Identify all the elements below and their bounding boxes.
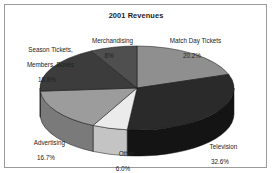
pie-label-season-tickets-line2: Members, Boxes	[27, 61, 74, 68]
pie-label-television-percent: 32.6%	[192, 158, 248, 166]
pie-label-match-day-tickets: Match Day Tickets 20.2%	[156, 29, 228, 75]
pie-label-advertising-text: Advertising	[34, 139, 65, 146]
pie-label-other-text: Other	[119, 150, 135, 157]
pie-label-advertising-percent: 16.7%	[18, 154, 74, 162]
pie-label-season-tickets: Season Tickets, Members, Boxes 18.8%	[8, 38, 86, 99]
pie-label-match-day-tickets-percent: 20.2%	[156, 52, 228, 60]
pie-label-match-day-tickets-text: Match Day Tickets	[170, 37, 221, 44]
pie-label-merchandising: Merchandising 8%	[78, 29, 140, 75]
chart-figure: 2001 Revenues Match Day Tickets 20.2%Tel…	[0, 0, 272, 173]
pie-label-season-tickets-line1: Season Tickets,	[28, 46, 72, 53]
pie-label-advertising: Advertising 16.7%	[18, 131, 74, 173]
pie-label-television-text: Television	[210, 143, 238, 150]
pie-label-other-percent: 6.0%	[101, 165, 145, 173]
pie-label-other: Other 6.0%	[101, 142, 145, 173]
pie-label-television: Television 32.6%	[192, 135, 248, 173]
pie-label-season-tickets-percent: 18.8%	[8, 76, 86, 84]
pie-label-merchandising-text: Merchandising	[92, 37, 133, 44]
pie-label-merchandising-percent: 8%	[78, 52, 140, 60]
